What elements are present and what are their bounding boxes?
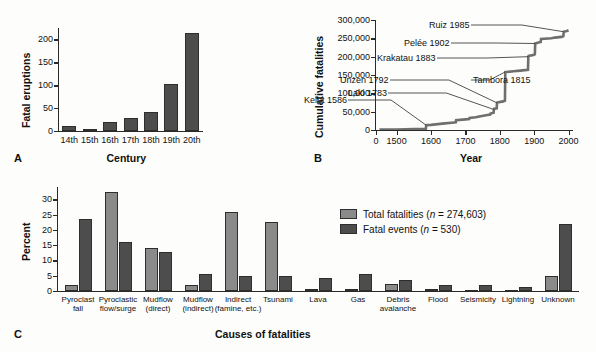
panel-b-annotation: Kelut 1586 xyxy=(304,95,347,105)
panel-a-y-tick-label: 50 xyxy=(25,104,53,113)
panel-b-y-tick-label: 300,000 xyxy=(320,16,370,25)
panel-b-annotation: Unzen 1792 xyxy=(340,75,389,85)
panel-b-x-tick-label: 1900 xyxy=(518,136,550,146)
panel-b-annotation: Laki 1783 xyxy=(348,88,387,98)
panel-b-y-tick-label: 200,000 xyxy=(320,53,370,62)
panel-c-bar-fatal-events xyxy=(199,274,212,291)
panel-b-x-axis xyxy=(375,130,573,131)
panel-a-y-tick-label: 0 xyxy=(25,127,53,136)
panel-c-legend-label: Total fatalities (n = 274,603) xyxy=(363,208,486,221)
panel-b-x-tick xyxy=(569,131,570,135)
panel-c-legend-label: Fatal events (n = 530) xyxy=(363,223,461,236)
panel-a: Fatal eruptions Century A 05010015020014… xyxy=(0,0,300,175)
panel-c-y-tick-label: 5 xyxy=(30,272,52,281)
panel-c-bar-total-fatalities xyxy=(545,276,558,291)
panel-b-annotation: Krakatau 1883 xyxy=(377,53,436,63)
panel-c-bar-fatal-events xyxy=(119,242,132,291)
panel-a-y-tick-label: 150 xyxy=(25,58,53,67)
panel-c-legend-swatch xyxy=(340,209,357,219)
panel-c-y-tick-label: 25 xyxy=(30,211,52,220)
panel-a-y-axis xyxy=(58,28,59,132)
panel-a-y-tick-label: 200 xyxy=(25,35,53,44)
panel-c-bar-total-fatalities xyxy=(105,192,118,291)
panel-a-bar xyxy=(144,112,158,131)
panel-b-x-tick xyxy=(397,131,398,135)
panel-b-x-tick xyxy=(500,131,501,135)
panel-b-x-tick-label: 1800 xyxy=(484,136,516,146)
panel-c-y-tick xyxy=(53,291,58,292)
panel-c-bar-fatal-events xyxy=(239,276,252,291)
panel-c-y-tick xyxy=(53,215,58,216)
panel-b: Cumulative fatalities Year B 050,000100,… xyxy=(300,0,596,175)
panel-b-x-tick xyxy=(534,131,535,135)
panel-c-x-axis-title: Causes of fatalities xyxy=(215,328,311,340)
panel-c-y-tick-label: 20 xyxy=(30,226,52,235)
panel-a-plot-area xyxy=(59,28,202,131)
panel-c-x-tick-label-line2: (famine, etc.) xyxy=(209,304,267,313)
panel-b-y-tick xyxy=(371,20,376,21)
panel-c-bar-total-fatalities xyxy=(225,212,238,291)
panel-a-y-tick xyxy=(54,131,59,132)
panel-c-bar-fatal-events xyxy=(159,252,172,291)
panel-c: Percent Causes of fatalities C Total fat… xyxy=(0,175,596,352)
panel-c-y-tick-label: 30 xyxy=(30,195,52,204)
panel-c-plot-area xyxy=(58,187,578,291)
panel-b-annotation: Tambora 1815 xyxy=(473,75,531,85)
panel-a-letter: A xyxy=(14,152,22,164)
panel-b-y-tick xyxy=(371,38,376,39)
panel-c-bar-total-fatalities xyxy=(145,248,158,291)
panel-a-y-tick xyxy=(54,62,59,63)
panel-c-bar-fatal-events xyxy=(279,276,292,291)
panel-a-y-tick xyxy=(54,39,59,40)
panel-b-x-tick xyxy=(465,131,466,135)
panel-a-bar xyxy=(185,33,199,131)
panel-b-x-tick-label: 1600 xyxy=(415,136,447,146)
panel-b-x-tick xyxy=(431,131,432,135)
panel-c-y-tick-label: 15 xyxy=(30,241,52,250)
panel-b-y-tick xyxy=(371,57,376,58)
panel-b-y-axis-title: Cumulative fatalities xyxy=(313,36,325,138)
panel-c-y-tick xyxy=(53,245,58,246)
panel-b-x-tick-label: 1700 xyxy=(449,136,481,146)
panel-c-bar-fatal-events xyxy=(319,278,332,291)
panel-b-y-tick-label: 250,000 xyxy=(320,34,370,43)
panel-a-y-tick xyxy=(54,85,59,86)
panel-c-y-tick xyxy=(53,230,58,231)
panel-c-x-tick-label-line2: avalanche xyxy=(369,304,427,313)
panel-c-letter: C xyxy=(14,328,22,340)
panel-b-annotation: Ruiz 1985 xyxy=(429,20,470,30)
panel-b-y-tick-label: 0 xyxy=(320,126,370,135)
panel-a-y-tick-label: 100 xyxy=(25,81,53,90)
panel-b-x-tick-label: 2000 xyxy=(553,136,585,146)
panel-c-bar-fatal-events xyxy=(79,219,92,291)
panel-c-x-tick-label-line1: Unknown xyxy=(529,295,587,304)
panel-c-x-tick-label: Unknown xyxy=(529,295,587,304)
panel-b-x-tick-label: 1500 xyxy=(381,136,413,146)
panel-c-y-tick xyxy=(53,260,58,261)
panel-b-annotation: Pelée 1902 xyxy=(404,38,450,48)
panel-c-bar-fatal-events xyxy=(359,274,372,291)
panel-c-bar-fatal-events xyxy=(559,224,572,291)
panel-c-legend-swatch xyxy=(340,224,357,234)
figure-root: { "figure": { "panels": [ { "letter": "A… xyxy=(0,0,596,352)
panel-b-y-tick xyxy=(371,112,376,113)
panel-c-bar-fatal-events xyxy=(399,280,412,291)
panel-c-bar-total-fatalities xyxy=(265,222,278,291)
panel-a-x-axis-title: Century xyxy=(107,152,147,164)
panel-a-bar xyxy=(103,122,117,131)
panel-a-x-tick-label: 20th xyxy=(175,135,209,145)
panel-b-x-tick xyxy=(376,131,377,135)
panel-c-y-tick xyxy=(53,199,58,200)
panel-c-y-tick-label: 10 xyxy=(30,256,52,265)
panel-a-bar xyxy=(164,84,178,131)
panel-c-x-axis xyxy=(57,291,579,292)
panel-b-y-tick-label: 50,000 xyxy=(320,108,370,117)
panel-a-y-tick xyxy=(54,108,59,109)
panel-c-y-tick xyxy=(53,276,58,277)
panel-c-bar-total-fatalities xyxy=(385,284,398,291)
panel-a-bar xyxy=(124,118,138,131)
panel-a-x-axis xyxy=(58,131,203,132)
panel-b-x-axis-title: Year xyxy=(460,152,482,164)
panel-b-letter: B xyxy=(314,152,322,164)
